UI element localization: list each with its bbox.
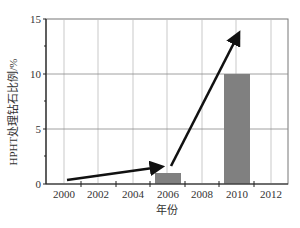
x-tick-labels: 2000 2002 2004 2006 2008 2010 2012 [53, 188, 282, 200]
svg-text:2002: 2002 [87, 188, 109, 200]
bar-2010 [224, 74, 250, 184]
y-tick-labels: 15 10 5 0 [30, 13, 42, 190]
svg-text:10: 10 [30, 68, 42, 80]
chart: 15 10 5 0 2000 2002 2004 2006 2008 2010 … [0, 0, 300, 228]
x-axis-title: 年份 [156, 203, 178, 216]
svg-text:15: 15 [30, 13, 42, 25]
svg-text:5: 5 [36, 123, 42, 135]
svg-text:2010: 2010 [226, 188, 249, 200]
svg-text:2006: 2006 [157, 188, 180, 200]
svg-text:2004: 2004 [122, 188, 145, 200]
svg-text:2008: 2008 [191, 188, 214, 200]
svg-text:2012: 2012 [260, 188, 282, 200]
y-axis-title: HPHT处理钻石比例/% [6, 59, 19, 166]
bar-2006 [155, 173, 181, 184]
svg-text:2000: 2000 [53, 188, 76, 200]
svg-text:0: 0 [36, 178, 42, 190]
